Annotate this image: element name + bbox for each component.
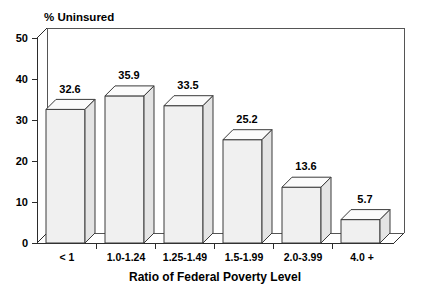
bar-front-face[interactable] xyxy=(223,140,262,243)
y-tick-label: 50 xyxy=(16,32,28,44)
bar-side-face[interactable] xyxy=(262,130,272,243)
bar-value-label: 13.6 xyxy=(295,160,316,172)
bar-value-label: 35.9 xyxy=(118,69,139,81)
axis-depth-right-diagonal xyxy=(394,233,404,243)
x-axis-ticks xyxy=(96,243,332,249)
x-tick-label: 1.0-1.24 xyxy=(107,251,146,263)
y-axis-ticks: 0 10 20 30 40 50 xyxy=(16,32,37,249)
y-tick-label: 0 xyxy=(22,237,28,249)
bar-group[interactable]: 32.6 xyxy=(46,83,95,243)
bar-value-label: 25.2 xyxy=(236,113,257,125)
bar-front-face[interactable] xyxy=(164,106,203,243)
x-tick-label: 4.0 + xyxy=(350,251,374,263)
bar-front-face[interactable] xyxy=(105,96,144,243)
y-tick-label: 30 xyxy=(16,114,28,126)
x-tick-label: < 1 xyxy=(60,251,75,263)
bar-group[interactable]: 13.6 xyxy=(282,160,331,243)
bar-chart: 0 10 20 30 40 50 32.6 xyxy=(0,0,424,293)
bar-group[interactable]: 5.7 xyxy=(341,193,390,243)
chart-container: 0 10 20 30 40 50 32.6 xyxy=(0,0,424,293)
bar-front-face[interactable] xyxy=(46,109,85,243)
bar-series: 32.6 35.9 33.5 25.2 xyxy=(46,69,390,243)
x-tick-label: 1.25-1.49 xyxy=(163,251,208,263)
bar-value-label: 5.7 xyxy=(357,193,372,205)
x-tick-label: 1.5-1.99 xyxy=(225,251,264,263)
y-tick-label: 10 xyxy=(16,196,28,208)
bar-group[interactable]: 25.2 xyxy=(223,113,272,243)
bar-side-face[interactable] xyxy=(144,86,154,243)
bar-front-face[interactable] xyxy=(282,187,321,243)
y-tick-label: 20 xyxy=(16,155,28,167)
bar-group[interactable]: 35.9 xyxy=(105,69,154,243)
x-tick-label: 2.0-3.99 xyxy=(284,251,323,263)
bar-front-face[interactable] xyxy=(341,220,380,243)
x-axis-labels: < 1 1.0-1.24 1.25-1.49 1.5-1.99 2.0-3.99… xyxy=(60,251,374,263)
y-axis-title: % Uninsured xyxy=(44,11,114,23)
bar-group[interactable]: 33.5 xyxy=(164,79,213,243)
bar-side-face[interactable] xyxy=(321,177,331,243)
axis-depth-top-diagonal xyxy=(37,28,47,38)
bar-value-label: 32.6 xyxy=(59,83,80,95)
bar-value-label: 33.5 xyxy=(177,79,198,91)
bar-side-face[interactable] xyxy=(203,96,213,243)
x-axis-title: Ratio of Federal Poverty Level xyxy=(129,270,301,284)
bar-side-face[interactable] xyxy=(85,99,95,243)
y-tick-label: 40 xyxy=(16,73,28,85)
